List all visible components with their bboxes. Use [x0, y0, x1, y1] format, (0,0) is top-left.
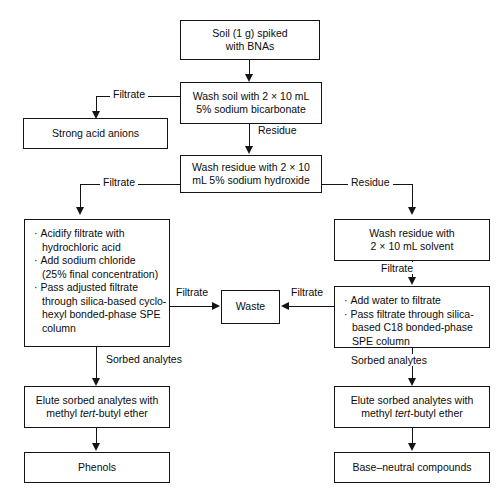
arrowhead-residue-bicarb [245, 146, 253, 154]
node-elute-right-line2: methyl tert-butyl ether [351, 407, 474, 421]
node-wash-soil[interactable]: Wash soil with 2 × 10 mL 5% sodium bicar… [180, 82, 322, 124]
bullet-cont: based C18 bonded-phase [344, 321, 483, 335]
edge-label-filtrate-left-waste: Filtrate [173, 286, 211, 298]
connector-left-to-waste [170, 306, 214, 307]
bullet-item: ·Add water to filtrate [344, 294, 483, 308]
bullet-marker-icon: · [34, 254, 38, 266]
node-elute-left-line2: methyl tert-butyl ether [36, 407, 159, 421]
bullet-marker-icon: · [34, 281, 38, 293]
edge-label-sorbed-left: Sorbed analytes [103, 353, 185, 365]
node-strong-acid-anions[interactable]: Strong acid anions [23, 118, 168, 149]
node-elute-left-line1: Elute sorbed analytes with [36, 394, 159, 408]
arrowhead-start-to-wash-soil [245, 74, 253, 82]
bullet-cont: SPE column [344, 335, 483, 349]
bullet-cont: hexyl bonded-phase SPE [34, 308, 166, 322]
arrowhead-sorbed-left [92, 378, 100, 386]
bullet-marker-icon: · [344, 308, 348, 320]
node-wash-residue-naoh-line2: mL 5% sodium hydroxide [192, 174, 310, 188]
node-start-line2: with BNAs [212, 40, 287, 54]
node-elute-right-line1: Elute sorbed analytes with [351, 394, 474, 408]
bullet-cont: (25% final concentration) [34, 268, 166, 282]
node-start-line1: Soil (1 g) spiked [212, 27, 287, 41]
node-base-neutral-line1: Base–neutral compounds [352, 461, 471, 475]
bullet-item: ·Acidify filtrate with [34, 227, 166, 241]
edge-label-residue-bicarb: Residue [255, 124, 300, 136]
connector-sorbed-left [96, 347, 97, 380]
node-add-water-spe[interactable]: ·Add water to filtrate ·Pass filtrate th… [334, 286, 490, 348]
arrowhead-filtrate-solvent [408, 277, 416, 285]
arrowhead-residue-naoh [408, 207, 416, 215]
node-wash-soil-line2: 5% sodium bicarbonate [193, 103, 310, 117]
arrowhead-left-to-waste [212, 302, 220, 310]
connector-right-to-waste [288, 306, 334, 307]
edge-label-residue-naoh: Residue [348, 176, 393, 188]
arrowhead-elute-left-to-phenols [92, 443, 100, 451]
node-wash-residue-naoh[interactable]: Wash residue with 2 × 10 mL 5% sodium hy… [180, 155, 322, 193]
node-phenols[interactable]: Phenols [24, 452, 170, 483]
arrowhead-sorbed-right [408, 378, 416, 386]
edge-label-sorbed-right: Sorbed analytes [348, 354, 430, 366]
edge-label-filtrate-bicarb: Filtrate [110, 88, 148, 100]
arrowhead-right-to-waste [281, 302, 289, 310]
bullet-cont: column [34, 322, 166, 336]
node-base-neutral[interactable]: Base–neutral compounds [334, 452, 490, 483]
node-wash-residue-solvent[interactable]: Wash residue with 2 × 10 mL solvent [334, 219, 490, 261]
edge-label-filtrate-right-waste: Filtrate [288, 286, 326, 298]
node-phenols-line1: Phenols [78, 461, 116, 475]
node-wash-residue-solvent-line1: Wash residue with [369, 227, 454, 241]
bullet-item: ·Pass adjusted filtrate [34, 281, 166, 295]
bullet-cont: through silica-based cyclo- [34, 295, 166, 309]
bullet-item: ·Pass filtrate through silica- [344, 308, 483, 322]
connector-residue-bicarb [249, 124, 250, 147]
node-wash-residue-solvent-line2: 2 × 10 mL solvent [369, 240, 454, 254]
edge-label-filtrate-solvent: Filtrate [378, 262, 416, 274]
node-start[interactable]: Soil (1 g) spiked with BNAs [180, 20, 320, 60]
connector-start-to-wash-soil [249, 60, 250, 75]
connector-residue-naoh-v [412, 184, 413, 209]
arrowhead-filtrate-naoh [76, 207, 84, 215]
bullet-marker-icon: · [34, 227, 38, 239]
bullet-cont: hydrochloric acid [34, 241, 166, 255]
node-waste-line1: Waste [236, 300, 265, 314]
bullet-item: ·Add sodium chloride [34, 254, 166, 268]
node-strong-acid-anions-line1: Strong acid anions [52, 127, 139, 141]
node-wash-soil-line1: Wash soil with 2 × 10 mL [193, 90, 310, 104]
flowchart-canvas: Filtrate Residue Filtrate Residue Filtra… [0, 0, 502, 497]
node-elute-left[interactable]: Elute sorbed analytes with methyl tert-b… [24, 386, 170, 428]
edge-label-filtrate-naoh: Filtrate [100, 176, 138, 188]
connector-filtrate-naoh-v [80, 184, 81, 209]
node-elute-right[interactable]: Elute sorbed analytes with methyl tert-b… [334, 386, 490, 428]
bullet-marker-icon: · [344, 294, 348, 306]
node-acidify-spe[interactable]: ·Acidify filtrate with hydrochloric acid… [24, 219, 170, 347]
node-waste[interactable]: Waste [221, 290, 280, 324]
arrowhead-elute-right-to-base-neutral [408, 443, 416, 451]
node-wash-residue-naoh-line1: Wash residue with 2 × 10 [192, 161, 310, 175]
